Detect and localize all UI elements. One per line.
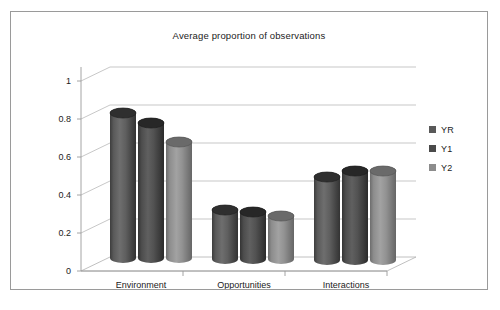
x-tick-label-environment: Environment [116, 280, 167, 290]
bar-interactions-y2 [370, 166, 396, 265]
x-tick-label-opportunities: Opportunities [217, 280, 271, 290]
legend-swatch-yr [429, 126, 436, 133]
legend-label-yr: YR [441, 125, 454, 135]
legend-swatch-y1 [429, 145, 436, 152]
legend-item-y2[interactable]: Y2 [429, 158, 485, 177]
bar-environment-yr [110, 108, 136, 263]
y-tick-label-0-2: 0.2 [37, 228, 71, 238]
bar-group-environment [110, 108, 192, 263]
legend-label-y1: Y1 [441, 144, 452, 154]
bar-environment-y1 [138, 118, 164, 263]
x-tick-label-interactions: Interactions [323, 280, 370, 290]
legend-item-y1[interactable]: Y1 [429, 139, 485, 158]
chart-svg [11, 12, 488, 290]
y-tick-label-0-8: 0.8 [37, 114, 71, 124]
bar-opportunities-yr [212, 205, 238, 264]
bar-group-opportunities [212, 205, 294, 264]
y-tick-label-0-4: 0.4 [37, 190, 71, 200]
figure-frame: Average proportion of observations [10, 11, 488, 290]
legend-item-yr[interactable]: YR [429, 120, 485, 139]
bar-opportunities-y2 [268, 211, 294, 264]
bar-group-interactions [314, 166, 396, 265]
y-axis [77, 67, 81, 271]
bar-opportunities-y1 [240, 207, 266, 264]
y-tick-label-0-6: 0.6 [37, 152, 71, 162]
x-axis [81, 271, 387, 276]
bar-interactions-y1 [342, 166, 368, 265]
bar-environment-y2 [166, 137, 192, 263]
y-tick-label-0: 0 [37, 266, 71, 276]
legend-swatch-y2 [429, 164, 436, 171]
bar-interactions-yr [314, 172, 340, 265]
legend-label-y2: Y2 [441, 163, 452, 173]
legend: YR Y1 Y2 [429, 120, 485, 177]
y-tick-label-1: 1 [37, 76, 71, 86]
plot-area [11, 12, 488, 290]
